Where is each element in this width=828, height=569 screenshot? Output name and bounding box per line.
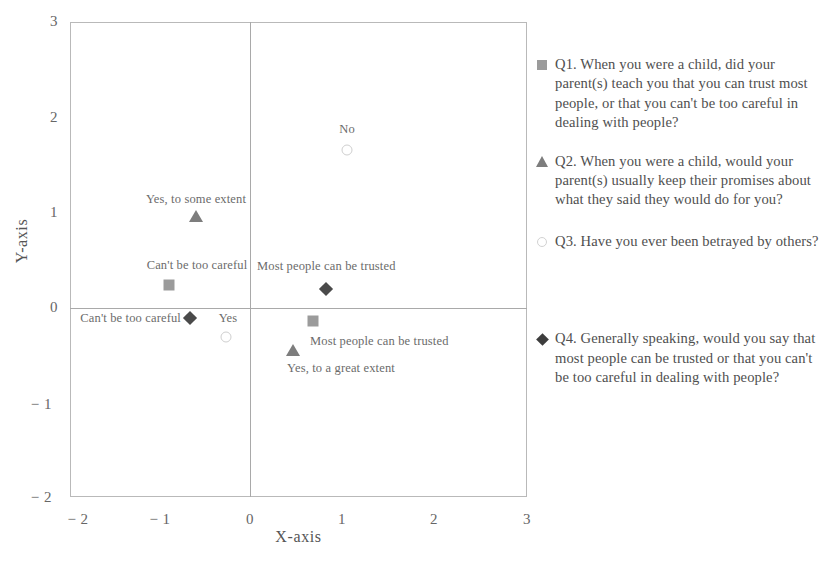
y-tick-3: 3 — [18, 13, 58, 30]
legend: Q1. When you were a child, did your pare… — [537, 55, 822, 387]
square-marker-icon — [537, 60, 547, 70]
data-point-q1-most-people-can-be-trusted[interactable] — [308, 316, 319, 327]
legend-item-q3-label: Q3. Have you ever been betrayed by other… — [555, 233, 819, 249]
legend-item-q2-label: Q2. When you were a child, would your pa… — [555, 153, 811, 208]
point-label-q4-cant-be-too-careful: Can't be too careful — [80, 311, 181, 326]
scatter-plot-figure: 3 2 1 0 − 1 − 2 − 2 − 1 0 1 2 3 X-axis Y… — [0, 0, 828, 569]
point-label-q1-cant-be-too-careful: Can't be too careful — [147, 258, 248, 273]
point-label-q1-most-people-can-be-trusted: Most people can be trusted — [310, 334, 449, 349]
point-label-q2-yes-to-a-great-extent: Yes, to a great extent — [287, 361, 395, 376]
legend-item-q4-label: Q4. Generally speaking, would you say th… — [555, 330, 815, 385]
legend-item-q3[interactable]: Q3. Have you ever been betrayed by other… — [537, 232, 822, 251]
legend-item-q4[interactable]: Q4. Generally speaking, would you say th… — [537, 329, 822, 387]
data-point-q2-yes-to-a-great-extent[interactable] — [286, 344, 300, 356]
data-point-q1-cant-be-too-careful[interactable] — [164, 280, 175, 291]
x-tick-0: 0 — [230, 511, 270, 528]
point-label-q2-yes-to-some-extent: Yes, to some extent — [146, 192, 246, 207]
data-point-q2-yes-to-some-extent[interactable] — [189, 210, 203, 222]
y-tick-neg1: − 1 — [12, 396, 52, 413]
zero-horizontal-axis-line — [70, 308, 527, 309]
x-tick-1: 1 — [322, 511, 362, 528]
data-point-q3-no[interactable] — [342, 145, 353, 156]
point-label-q4-most-people-can-be-trusted: Most people can be trusted — [257, 259, 396, 274]
point-label-q3-no: No — [339, 122, 355, 137]
y-tick-neg2: − 2 — [12, 489, 52, 506]
data-point-q3-yes[interactable] — [221, 332, 232, 343]
circle-marker-icon — [537, 237, 547, 247]
x-tick-3: 3 — [507, 511, 547, 528]
x-axis-title: X-axis — [0, 528, 597, 546]
diamond-marker-icon — [536, 333, 549, 346]
legend-item-q1[interactable]: Q1. When you were a child, did your pare… — [537, 55, 822, 133]
triangle-marker-icon — [536, 156, 548, 167]
zero-vertical-axis-line — [250, 22, 251, 497]
point-label-q3-yes: Yes — [219, 311, 238, 326]
y-tick-0: 0 — [18, 299, 58, 316]
y-axis-title: Y-axis — [13, 191, 31, 291]
x-tick-2: 2 — [414, 511, 454, 528]
legend-item-q1-label: Q1. When you were a child, did your pare… — [555, 56, 808, 130]
x-tick-neg2: − 2 — [58, 511, 98, 528]
y-tick-2: 2 — [18, 109, 58, 126]
x-tick-neg1: − 1 — [140, 511, 180, 528]
legend-item-q2[interactable]: Q2. When you were a child, would your pa… — [537, 152, 822, 210]
